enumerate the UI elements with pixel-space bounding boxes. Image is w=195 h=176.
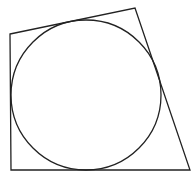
tangential-quadrilateral-diagram — [0, 0, 195, 176]
inscribed-circle — [11, 20, 161, 170]
quadrilateral — [10, 8, 190, 170]
